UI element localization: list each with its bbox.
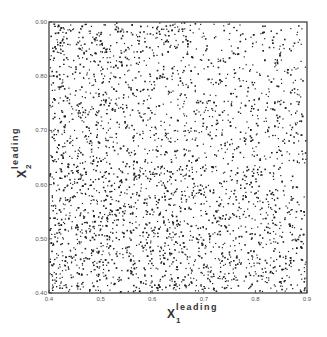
x-axis-label: X 1 leading bbox=[167, 302, 218, 325]
y-tick-label: 0.80 bbox=[35, 73, 47, 79]
x-axis-subscript: 1 bbox=[176, 316, 181, 325]
y-axis-label: X 2 leading bbox=[10, 127, 33, 178]
y-tick-label: 0.50 bbox=[35, 236, 47, 242]
plot-frame bbox=[49, 22, 307, 293]
x-tick-label: 0.8 bbox=[251, 296, 260, 302]
x-tick-label: 0.6 bbox=[148, 296, 157, 302]
scatter-points bbox=[49, 22, 306, 293]
x-axis-superscript: leading bbox=[176, 302, 218, 312]
y-tick-label: 0.70 bbox=[35, 127, 47, 133]
x-tick-label: 0.9 bbox=[303, 296, 312, 302]
x-axis-symbol: X bbox=[167, 307, 175, 321]
y-tick-label: 0.40 bbox=[35, 290, 47, 296]
y-tick-label: 0.90 bbox=[35, 19, 47, 25]
y-axis-symbol: X bbox=[15, 170, 29, 178]
scatter-chart: 0.40.50.60.70.80.9 0.400.500.600.700.800… bbox=[0, 0, 327, 337]
x-axis-ticks: 0.40.50.60.70.80.9 bbox=[45, 290, 312, 302]
y-axis-superscript: leading bbox=[10, 127, 20, 169]
y-axis-subscript: 2 bbox=[24, 164, 33, 169]
y-tick-label: 0.60 bbox=[35, 182, 47, 188]
x-tick-label: 0.4 bbox=[45, 296, 54, 302]
x-tick-label: 0.5 bbox=[96, 296, 105, 302]
